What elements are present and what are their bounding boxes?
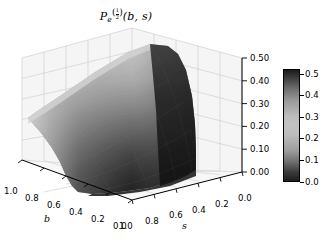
colorbar-label-1: 0.1 [305,155,319,165]
axis-label-s: s [182,220,187,231]
axes-3d-canvas [0,0,266,250]
tick-s-0: 1.0 [119,221,133,231]
tick-s-4: 0.2 [215,199,229,209]
tick-z-4: 0.40 [250,76,269,86]
tick-s-5: 0.0 [238,193,252,203]
colorbar-ticks: 0.0 0.1 0.2 0.3 0.4 0.5 [283,60,330,190]
axis-label-b: b [44,213,50,224]
colorbar-tickmark-3 [300,117,304,118]
colorbar-tickmark-0 [300,182,304,183]
tick-b-1: 0.8 [25,193,39,203]
colorbar-tickmark-1 [300,160,304,161]
tick-z-5: 0.50 [250,53,269,63]
colorbar-tickmark-5 [300,74,304,75]
tick-z-1: 0.10 [250,144,269,154]
colorbar-label-5: 0.5 [305,69,319,79]
tick-b-2: 0.6 [47,200,61,210]
tick-s-1: 0.8 [145,216,159,226]
colorbar-label-2: 0.2 [305,133,319,143]
tick-b-3: 0.4 [69,207,83,217]
tick-b-4: 0.2 [91,214,105,224]
colorbar-tickmark-2 [300,138,304,139]
tick-z-3: 0.30 [250,99,269,109]
colorbar-label-4: 0.4 [305,90,319,100]
axes-3d: 1.0 0.8 0.6 0.4 0.2 0.0 b 1.0 0.8 0.6 0.… [0,0,266,250]
tick-s-2: 0.6 [169,210,183,220]
tick-z-2: 0.20 [250,121,269,131]
colorbar-tickmark-4 [300,95,304,96]
figure-3d-surface-plot: Pe(12)(b, s) [0,0,330,250]
tick-b-0: 1.0 [4,186,18,196]
colorbar-label-0: 0.0 [305,177,319,187]
tick-marks-z [242,58,247,172]
colorbar-label-3: 0.3 [305,112,319,122]
tick-z-0: 0.00 [250,167,269,177]
tick-s-3: 0.4 [192,205,206,215]
